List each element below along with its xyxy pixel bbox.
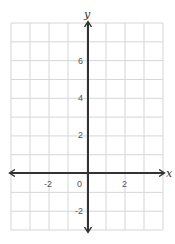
y-tick-label: 6	[78, 56, 83, 66]
coordinate-plane: x y -2 0 2 6 4 2 -2	[0, 0, 175, 244]
y-tick-label: -2	[75, 206, 83, 216]
y-tick-label: 4	[78, 93, 83, 103]
y-tick-label: 2	[78, 130, 83, 140]
x-axis-label: x	[166, 167, 173, 180]
x-tick-label: 2	[122, 179, 127, 189]
origin-label: 0	[77, 179, 82, 189]
y-axis-label: y	[83, 8, 91, 21]
x-tick-label: -2	[44, 179, 52, 189]
